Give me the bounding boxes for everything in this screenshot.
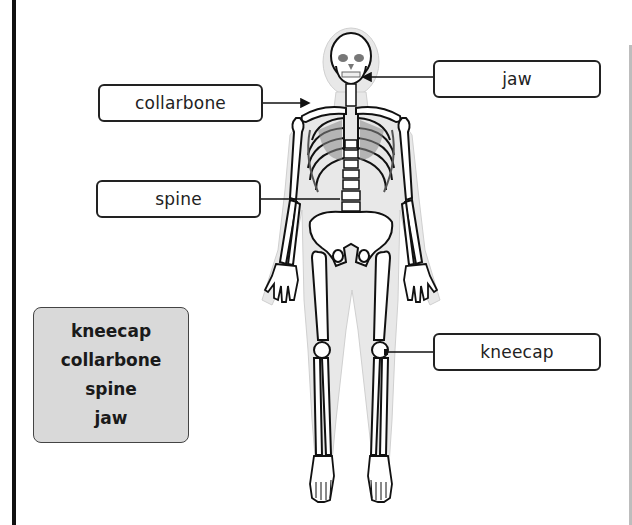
label-spine-text: spine bbox=[155, 189, 202, 209]
label-spine: spine bbox=[96, 180, 261, 218]
word-bank-item: kneecap bbox=[71, 317, 151, 346]
label-collarbone: collarbone bbox=[98, 84, 263, 122]
label-jaw-text: jaw bbox=[502, 69, 532, 89]
word-bank: kneecap collarbone spine jaw bbox=[33, 307, 189, 443]
word-bank-item: collarbone bbox=[61, 346, 162, 375]
word-bank-item: jaw bbox=[94, 404, 127, 433]
feet bbox=[310, 456, 392, 502]
word-bank-item: spine bbox=[85, 375, 137, 404]
label-collarbone-text: collarbone bbox=[135, 93, 226, 113]
kneecap-left bbox=[314, 342, 330, 358]
label-kneecap-text: kneecap bbox=[480, 342, 554, 362]
label-kneecap: kneecap bbox=[433, 333, 601, 371]
label-jaw: jaw bbox=[433, 60, 601, 98]
